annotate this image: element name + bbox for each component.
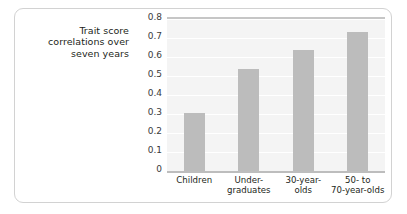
y-tick-0.3: 0.3 [140, 108, 162, 117]
y-axis-caption-line-1: Trait score [23, 25, 129, 36]
x-axis-labels: Children Under- graduates 30-year- olds … [167, 175, 385, 195]
bar-30-year-olds [293, 50, 314, 171]
bar-slot-undergraduates [222, 19, 277, 171]
x-label-undergraduates: Under- graduates [222, 175, 277, 195]
bar-slot-children [167, 19, 222, 171]
bar-series [167, 19, 385, 171]
bar-slot-30-year-olds [276, 19, 331, 171]
y-axis-tick-labels: 0.8 0.7 0.6 0.5 0.4 0.3 0.2 0.1 0 [140, 17, 162, 169]
y-axis-caption-line-3: seven years [23, 48, 129, 59]
x-label-children: Children [167, 175, 222, 195]
y-tick-0.2: 0.2 [140, 127, 162, 136]
x-label-50-to-70-year-olds: 50- to 70-year-olds [331, 175, 386, 195]
y-tick-0.6: 0.6 [140, 51, 162, 60]
plot-zone: 0.8 0.7 0.6 0.5 0.4 0.3 0.2 0.1 0 [140, 17, 385, 197]
bar-slot-50-to-70-year-olds [331, 19, 386, 171]
bar-children [184, 113, 205, 171]
y-axis-caption-line-2: correlations over [23, 36, 129, 47]
y-tick-0: 0 [140, 165, 162, 174]
y-tick-0.1: 0.1 [140, 146, 162, 155]
y-axis-caption: Trait score correlations over seven year… [23, 25, 129, 59]
x-label-30-year-olds: 30-year- olds [276, 175, 331, 195]
bar-50-to-70-year-olds [347, 32, 368, 171]
y-tick-0.7: 0.7 [140, 32, 162, 41]
y-tick-0.8: 0.8 [140, 13, 162, 22]
chart-card: Trait score correlations over seven year… [14, 8, 392, 203]
y-tick-0.4: 0.4 [140, 89, 162, 98]
y-tick-0.5: 0.5 [140, 70, 162, 79]
bar-undergraduates [238, 69, 259, 171]
plot-area [167, 17, 385, 173]
